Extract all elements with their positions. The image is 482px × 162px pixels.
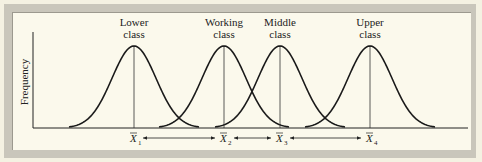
label-working-class-1: Working: [205, 16, 244, 28]
mean-x2: X 2: [219, 132, 232, 147]
label-lower-class-1: Lower: [120, 16, 149, 28]
label-working-class-2: class: [213, 28, 234, 40]
label-upper-class-2: class: [359, 28, 380, 40]
svg-text:X: X: [275, 132, 284, 144]
svg-text:X: X: [219, 132, 228, 144]
svg-text:4: 4: [374, 139, 378, 147]
label-upper-class-1: Upper: [356, 16, 384, 28]
mean-x4: X 4: [365, 132, 378, 147]
mean-lines: [134, 46, 370, 128]
label-middle-class-1: Middle: [264, 16, 296, 28]
mean-x1: X 1: [129, 132, 142, 147]
svg-text:X: X: [129, 132, 138, 144]
label-middle-class-2: class: [269, 28, 290, 40]
frequency-curves: [69, 46, 435, 127]
svg-text:2: 2: [228, 139, 232, 147]
svg-text:X: X: [365, 132, 374, 144]
normal-curves-diagram: Frequency Lower class Working class Midd…: [0, 0, 482, 162]
svg-text:3: 3: [284, 139, 288, 147]
y-axis-label: Frequency: [18, 58, 30, 105]
label-lower-class-2: class: [123, 28, 144, 40]
svg-text:1: 1: [138, 139, 142, 147]
mean-x3: X 3: [275, 132, 288, 147]
